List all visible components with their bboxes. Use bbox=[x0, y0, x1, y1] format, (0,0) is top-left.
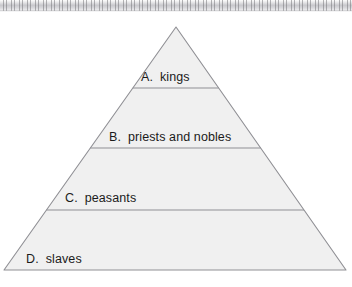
tier-letter-d: D. bbox=[26, 252, 39, 266]
tier-letter-c: C. bbox=[65, 191, 78, 205]
tier-text-priests-and-nobles: priests and nobles bbox=[128, 130, 231, 144]
tier-label-slaves: D.slaves bbox=[26, 253, 82, 266]
pyramid-diagram: A.kings B.priests and nobles C.peasants … bbox=[0, 0, 352, 287]
tier-label-kings: A.kings bbox=[141, 71, 190, 84]
tier-label-peasants: C.peasants bbox=[65, 192, 136, 205]
tier-letter-b: B. bbox=[109, 130, 121, 144]
tier-label-priests-and-nobles: B.priests and nobles bbox=[109, 131, 231, 144]
tier-text-slaves: slaves bbox=[46, 252, 82, 266]
tier-text-kings: kings bbox=[160, 70, 190, 84]
tier-text-peasants: peasants bbox=[85, 191, 137, 205]
tier-letter-a: A. bbox=[141, 70, 153, 84]
